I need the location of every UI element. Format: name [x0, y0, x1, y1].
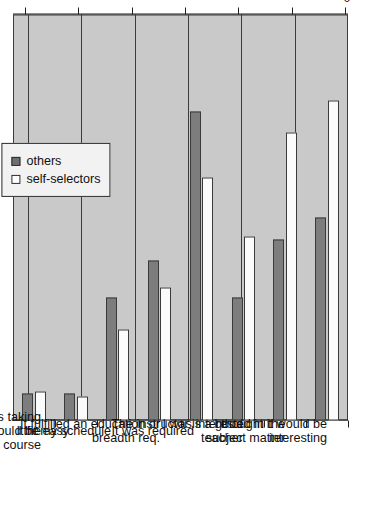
plot-area [13, 14, 348, 420]
axis-tick [78, 7, 79, 14]
axis-tick-label: 30 [180, 0, 194, 1]
axis-tick [185, 7, 186, 14]
legend-item-self-selectors: self-selectors [11, 171, 100, 185]
axis-tick-label: 0 [343, 0, 350, 4]
gridline [81, 14, 82, 420]
axis-tick-label: 40 [127, 0, 141, 1]
legend-swatch-icon [11, 174, 20, 183]
value-axis-line [13, 13, 348, 14]
legend-label: self-selectors [26, 171, 100, 185]
axis-tick [238, 7, 239, 14]
axis-tick [25, 7, 26, 14]
bar-others [106, 297, 117, 420]
rotated-chart-stage: 0102030405060 My friend(s) was taking th… [0, 0, 392, 531]
bar-others [190, 111, 201, 420]
axis-tick-label: 10 [287, 0, 301, 1]
bar-self-selectors [286, 132, 297, 420]
legend-label: others [26, 153, 61, 167]
bar-self-selectors [202, 177, 213, 420]
bar-others [315, 217, 326, 420]
axis-tick [132, 7, 133, 14]
legend-swatch-icon [11, 156, 20, 165]
chart-legend: othersself-selectors [1, 142, 110, 196]
axis-tick-label: 60 [20, 0, 34, 1]
bar-self-selectors [160, 287, 171, 420]
gridline [135, 14, 136, 420]
legend-item-others: others [11, 153, 100, 167]
category-label: I thought it would be interesting [177, 416, 327, 444]
bar-others [232, 297, 243, 420]
bar-others [273, 239, 284, 420]
bar-chart-figure: 0102030405060 My friend(s) was taking th… [0, 0, 392, 531]
bar-self-selectors [328, 100, 339, 420]
axis-tick-label: 20 [233, 0, 247, 1]
axis-tick [345, 7, 346, 14]
bar-self-selectors [118, 329, 129, 420]
gridline [28, 14, 29, 420]
bar-self-selectors [244, 236, 255, 420]
axis-tick [292, 7, 293, 14]
bar-others [148, 260, 159, 420]
axis-tick-label: 50 [73, 0, 87, 1]
category-tick [348, 420, 349, 427]
